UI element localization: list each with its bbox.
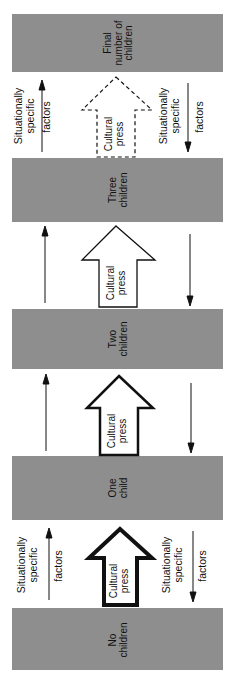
- factors-label-right-top: Situationally specific: [157, 83, 183, 149]
- factors-label-left-bottom-factors: factors: [52, 546, 66, 586]
- label-line: Situationally: [12, 83, 24, 149]
- label-line: factors: [196, 546, 208, 586]
- arrow-down-icon: [185, 83, 196, 602]
- factors-label-left-top-factors: factors: [40, 97, 54, 137]
- factors-label-right-top-factors: factors: [193, 97, 207, 137]
- label-line: specific: [27, 532, 39, 598]
- cultural-press-label: Cultural press: [104, 109, 128, 159]
- arrow-up-icon: [39, 80, 52, 600]
- cultural-press-label: Cultural press: [106, 258, 130, 308]
- label-line: factors: [40, 97, 52, 137]
- label-line: press: [118, 406, 129, 456]
- label-line: Situationally: [157, 83, 169, 149]
- label-line: specific: [169, 83, 181, 149]
- label-line: specific: [24, 83, 36, 149]
- factors-label-left-bottom: Situationally specific: [15, 532, 41, 598]
- label-line: factors: [193, 97, 205, 137]
- label-line: specific: [172, 532, 184, 598]
- cultural-press-label: Cultural press: [107, 406, 131, 456]
- label-line: Cultural: [107, 406, 118, 456]
- label-line: Situationally: [160, 532, 172, 598]
- label-line: Situationally: [15, 532, 27, 598]
- label-line: factors: [52, 546, 64, 586]
- label-line: Cultural: [109, 556, 120, 606]
- label-line: Cultural: [106, 258, 117, 308]
- label-line: press: [115, 109, 126, 159]
- factors-label-left-top: Situationally specific: [12, 83, 38, 149]
- label-line: press: [117, 258, 128, 308]
- label-line: Cultural: [104, 109, 115, 159]
- cultural-press-label: Cultural press: [109, 556, 133, 606]
- label-line: press: [120, 556, 131, 606]
- factors-label-right-bottom-factors: factors: [196, 546, 210, 586]
- factors-label-right-bottom: Situationally specific: [160, 532, 186, 598]
